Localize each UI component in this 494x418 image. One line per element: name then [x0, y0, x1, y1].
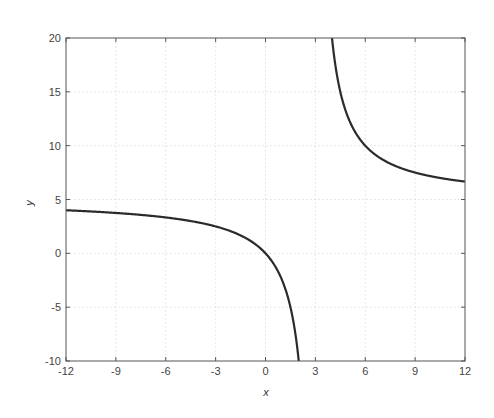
y-tick-label: 10	[49, 140, 61, 152]
y-tick-label: 0	[55, 247, 61, 259]
y-tick-label: -10	[45, 355, 61, 367]
x-tick-label: -3	[211, 365, 221, 377]
x-tick-label: -9	[111, 365, 121, 377]
y-tick-labels: -10-505101520	[45, 32, 61, 367]
chart-canvas: -12-9-6-3036912 -10-505101520 x y	[0, 0, 494, 418]
x-tick-label: 0	[262, 365, 268, 377]
y-tick-label: 5	[55, 194, 61, 206]
x-tick-label: -6	[161, 365, 171, 377]
x-axis-label: x	[262, 386, 269, 398]
y-tick-label: 15	[49, 86, 61, 98]
curve-left-branch	[66, 210, 299, 361]
y-tick-label: -5	[51, 301, 61, 313]
x-tick-label: 3	[312, 365, 318, 377]
curve-right-branch	[332, 38, 465, 182]
y-axis-label: y	[23, 199, 35, 207]
x-tick-labels: -12-9-6-3036912	[58, 365, 471, 377]
grid-lines	[66, 38, 465, 361]
x-tick-label: 12	[459, 365, 471, 377]
x-tick-label: 6	[362, 365, 368, 377]
x-tick-label: 9	[412, 365, 418, 377]
y-tick-label: 20	[49, 32, 61, 44]
